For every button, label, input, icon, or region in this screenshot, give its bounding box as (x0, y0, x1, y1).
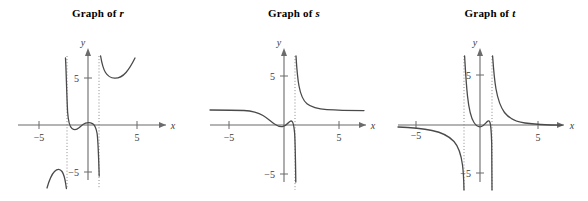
x-tick-label-5: 5 (135, 132, 140, 143)
y-axis-arrow (281, 48, 287, 56)
graph-panel-r: Graph of r −5 5 5 −5 x y (0, 0, 196, 201)
y-axis-name: y (276, 37, 282, 48)
x-tick-label-neg5: −5 (224, 132, 235, 143)
x-tick-label-neg5: −5 (34, 132, 45, 143)
plot-t: −5 5 5 −5 x y (392, 0, 588, 201)
curve-left-branch (210, 110, 296, 182)
x-tick-label-neg5: −5 (411, 130, 422, 141)
graph-panel-s: Graph of s −5 5 5 −5 x y (196, 0, 392, 201)
x-tick-label-5: 5 (536, 132, 541, 143)
three-graphs-figure: Graph of r −5 5 5 −5 x y (0, 0, 588, 201)
x-axis-name: x (370, 120, 376, 131)
curve-upper-right-branch (101, 56, 135, 78)
y-tick-label-5: 5 (74, 73, 79, 84)
y-axis-arrow (85, 48, 91, 56)
curve-upper-left-branch (66, 58, 100, 176)
y-tick-label-5: 5 (466, 70, 471, 81)
plot-r: −5 5 5 −5 x y (0, 0, 196, 201)
x-tick-label-5: 5 (337, 132, 342, 143)
y-tick-label-neg5: −5 (68, 167, 79, 178)
y-tick-label-neg5: −5 (264, 169, 275, 180)
curve-far-left-branch (398, 127, 464, 190)
x-axis-arrow (359, 122, 366, 128)
plot-s: −5 5 5 −5 x y (196, 0, 392, 201)
graph-panel-t: Graph of t −5 5 5 −5 x y (392, 0, 588, 201)
curve-lower-left-branch (47, 169, 66, 188)
y-axis-name: y (80, 37, 86, 48)
y-tick-label-neg5: −5 (460, 168, 471, 179)
curve-right-branch (296, 56, 364, 111)
y-axis-arrow (477, 48, 483, 56)
x-axis-name: x (170, 120, 176, 131)
curve-right-branch (493, 56, 562, 125)
y-tick-label-5: 5 (270, 71, 275, 82)
x-axis-name: x (569, 120, 575, 131)
x-axis-arrow (159, 122, 166, 128)
y-axis-name: y (472, 37, 478, 48)
